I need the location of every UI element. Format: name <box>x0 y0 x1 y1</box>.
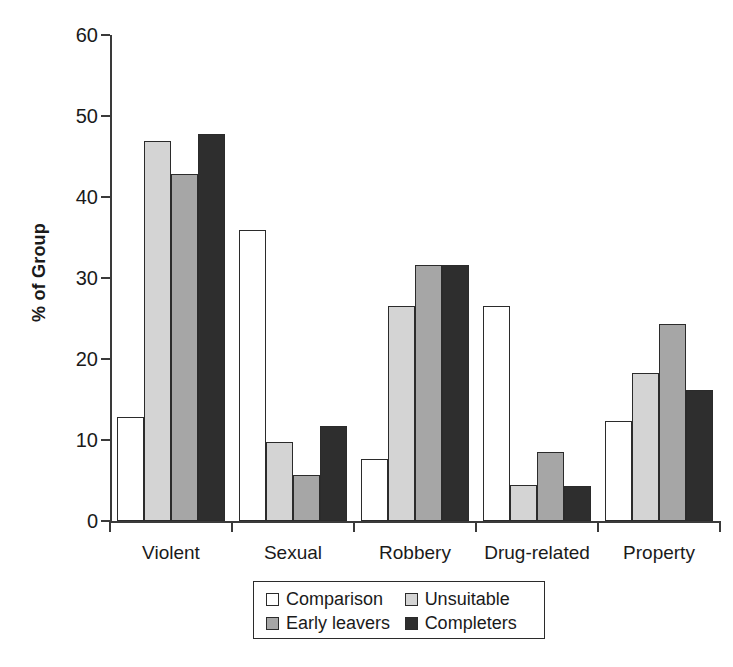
y-axis-tick-label: 60 <box>38 25 98 45</box>
legend-label-early-leavers: Early leavers <box>286 614 390 632</box>
legend-swatch-unsuitable-icon <box>405 593 418 606</box>
bar-property-early-leavers <box>659 324 686 521</box>
x-axis-label-property: Property <box>623 543 695 562</box>
legend-row: Comparison Unsuitable <box>266 587 534 611</box>
x-axis-tick <box>597 521 599 532</box>
x-axis-line <box>110 521 720 523</box>
x-axis-label-violent: Violent <box>142 543 200 562</box>
bar-sexual-unsuitable <box>266 442 293 521</box>
legend-label-completers: Completers <box>425 614 517 632</box>
plot-area: 0102030405060 ViolentSexualRobberyDrug-r… <box>110 35 720 521</box>
y-axis-tick <box>101 115 110 117</box>
bar-sexual-early-leavers <box>293 475 320 521</box>
bar-chart-figure: % of Group 0102030405060 ViolentSexualRo… <box>0 0 733 667</box>
x-axis-tick <box>719 521 721 532</box>
y-axis-tick-label: 40 <box>38 187 98 207</box>
x-axis-label-drug-related: Drug-related <box>484 543 590 562</box>
bar-property-completers <box>686 390 713 521</box>
y-axis-tick-label: 20 <box>38 349 98 369</box>
x-axis-tick <box>109 521 111 532</box>
bar-robbery-unsuitable <box>388 306 415 521</box>
bar-robbery-comparison <box>361 459 388 521</box>
x-axis-label-robbery: Robbery <box>379 543 451 562</box>
bar-violent-comparison <box>117 417 144 521</box>
bar-sexual-comparison <box>239 230 266 521</box>
legend-item-completers[interactable]: Completers <box>405 614 534 632</box>
y-axis-tick <box>101 196 110 198</box>
y-axis-tick <box>101 439 110 441</box>
x-axis-label-sexual: Sexual <box>264 543 322 562</box>
legend: Comparison Unsuitable Early leavers Comp… <box>253 581 545 639</box>
y-axis-tick-label: 30 <box>38 268 98 288</box>
bar-property-comparison <box>605 421 632 521</box>
bar-robbery-completers <box>442 265 469 521</box>
x-axis-tick <box>231 521 233 532</box>
legend-item-comparison[interactable]: Comparison <box>266 590 405 608</box>
legend-swatch-early-leavers-icon <box>266 617 279 630</box>
y-axis-tick-label: 10 <box>38 430 98 450</box>
bar-drug-related-comparison <box>483 306 510 521</box>
y-axis-tick-label: 50 <box>38 106 98 126</box>
legend-swatch-comparison-icon <box>266 593 279 606</box>
bar-drug-related-completers <box>564 486 591 521</box>
bar-violent-unsuitable <box>144 141 171 521</box>
bar-drug-related-early-leavers <box>537 452 564 521</box>
y-axis-tick <box>101 277 110 279</box>
bar-violent-early-leavers <box>171 174 198 521</box>
x-axis-tick <box>475 521 477 532</box>
bar-drug-related-unsuitable <box>510 485 537 521</box>
legend-label-unsuitable: Unsuitable <box>425 590 510 608</box>
bar-property-unsuitable <box>632 373 659 521</box>
y-axis-tick <box>101 34 110 36</box>
legend-item-early-leavers[interactable]: Early leavers <box>266 614 405 632</box>
y-axis-tick <box>101 358 110 360</box>
bar-sexual-completers <box>320 426 347 521</box>
bar-violent-completers <box>198 134 225 521</box>
y-axis-line <box>110 35 112 522</box>
x-axis-tick <box>353 521 355 532</box>
legend-item-unsuitable[interactable]: Unsuitable <box>405 590 534 608</box>
legend-row: Early leavers Completers <box>266 611 534 635</box>
bar-robbery-early-leavers <box>415 265 442 521</box>
legend-swatch-completers-icon <box>405 617 418 630</box>
y-axis-tick-label: 0 <box>38 511 98 531</box>
legend-label-comparison: Comparison <box>286 590 383 608</box>
